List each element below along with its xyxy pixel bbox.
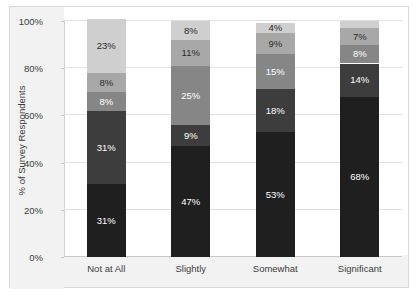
y-axis-tick-mark bbox=[61, 68, 64, 69]
chart-container: % of Survey Respondents 31%31%8%8%23%47%… bbox=[9, 6, 409, 288]
stacked-bar[interactable]: 53%18%15%9%4% bbox=[256, 21, 295, 257]
bar-segment-label: 47% bbox=[181, 197, 200, 207]
bar-group[interactable]: 68%14%8%7% bbox=[340, 21, 379, 257]
bar-segment-label: 31% bbox=[97, 143, 116, 153]
bar-segment[interactable]: 9% bbox=[171, 125, 210, 146]
bar-group[interactable]: 47%9%25%11%8% bbox=[171, 21, 210, 257]
y-axis-tick-mark bbox=[61, 21, 64, 22]
stacked-bar[interactable]: 47%9%25%11%8% bbox=[171, 21, 210, 257]
y-axis-tick-label: 60% bbox=[3, 110, 43, 121]
y-axis-tick-mark bbox=[61, 210, 64, 211]
bar-segment-label: 7% bbox=[353, 32, 367, 42]
y-axis-tick-mark bbox=[61, 163, 64, 164]
bar-segment-label: 8% bbox=[353, 49, 367, 59]
bar-segment[interactable]: 14% bbox=[340, 64, 379, 97]
bar-segment-label: 4% bbox=[268, 23, 282, 33]
bar-segment[interactable]: 8% bbox=[87, 73, 126, 92]
x-axis-category-label: Significant bbox=[300, 263, 419, 274]
bar-segment-label: 18% bbox=[266, 106, 285, 116]
y-axis-tick-mark bbox=[61, 115, 64, 116]
bar-segment-label: 8% bbox=[99, 78, 113, 88]
y-axis-tick-label: 80% bbox=[3, 63, 43, 74]
bar-segment[interactable]: 31% bbox=[87, 111, 126, 184]
bar-segment-label: 31% bbox=[97, 216, 116, 226]
y-axis-tick-label: 100% bbox=[3, 16, 43, 27]
y-axis-title-band: % of Survey Respondents bbox=[10, 7, 32, 289]
bar-group[interactable]: 31%31%8%8%23% bbox=[87, 21, 126, 257]
bar-segment-label: 23% bbox=[97, 41, 116, 51]
bar-segment-label: 14% bbox=[350, 75, 369, 85]
stacked-bar[interactable]: 68%14%8%7% bbox=[340, 21, 379, 257]
y-axis-tick-label: 20% bbox=[3, 204, 43, 215]
bar-segment[interactable]: 23% bbox=[87, 19, 126, 73]
bar-segment[interactable]: 9% bbox=[256, 33, 295, 54]
bar-segment[interactable]: 31% bbox=[87, 184, 126, 257]
y-axis-tick-mark bbox=[61, 257, 64, 258]
bar-segment[interactable]: 8% bbox=[340, 45, 379, 64]
bar-segment[interactable]: 11% bbox=[171, 40, 210, 66]
bar-segment[interactable]: 53% bbox=[256, 132, 295, 257]
plot-area: 31%31%8%8%23%47%9%25%11%8%53%18%15%9%4%6… bbox=[64, 21, 402, 257]
y-axis-title: % of Survey Respondents bbox=[16, 18, 27, 264]
bar-segment-label: 9% bbox=[184, 131, 198, 141]
bar-segment[interactable]: 8% bbox=[171, 21, 210, 40]
bar-segment-label: 11% bbox=[182, 48, 200, 58]
bar-segment[interactable] bbox=[340, 21, 379, 28]
bar-segment[interactable]: 4% bbox=[256, 23, 295, 32]
bar-segment-label: 25% bbox=[181, 91, 200, 101]
bar-segment[interactable]: 15% bbox=[256, 54, 295, 89]
bar-segment-label: 15% bbox=[266, 67, 285, 77]
bar-segment[interactable]: 7% bbox=[340, 28, 379, 45]
bar-segment-label: 8% bbox=[99, 97, 113, 107]
bar-segment-label: 53% bbox=[266, 190, 285, 200]
y-axis-tick-label: 0% bbox=[3, 252, 43, 263]
bar-segment[interactable]: 68% bbox=[340, 97, 379, 257]
bar-segment-label: 9% bbox=[268, 39, 282, 49]
bar-segment[interactable]: 8% bbox=[87, 92, 126, 111]
bar-segment[interactable]: 25% bbox=[171, 66, 210, 125]
bar-segment-label: 68% bbox=[350, 172, 369, 182]
stacked-bar[interactable]: 31%31%8%8%23% bbox=[87, 21, 126, 257]
bar-segment-label: 8% bbox=[184, 26, 198, 36]
y-axis-tick-band bbox=[32, 7, 64, 289]
y-axis-tick-label: 40% bbox=[3, 157, 43, 168]
bar-group[interactable]: 53%18%15%9%4% bbox=[256, 21, 295, 257]
bar-segment[interactable]: 18% bbox=[256, 89, 295, 131]
bar-segment[interactable]: 47% bbox=[171, 146, 210, 257]
